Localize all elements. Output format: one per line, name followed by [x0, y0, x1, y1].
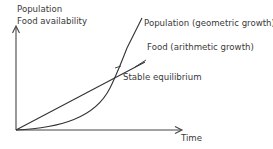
y-axis-label-food: Food availability [17, 16, 87, 26]
food-line-label: Food (arithmetic growth) [147, 42, 254, 52]
equilibrium-marker [115, 66, 121, 68]
x-axis-label: Time [180, 133, 202, 143]
y-axis-label-population: Population [17, 4, 62, 14]
diagram-canvas: Population Food availability Population … [0, 0, 273, 149]
population-curve-label: Population (geometric growth) [144, 18, 273, 28]
equilibrium-label: Stable equilibrium [123, 72, 202, 82]
food-leader-line [135, 60, 146, 67]
